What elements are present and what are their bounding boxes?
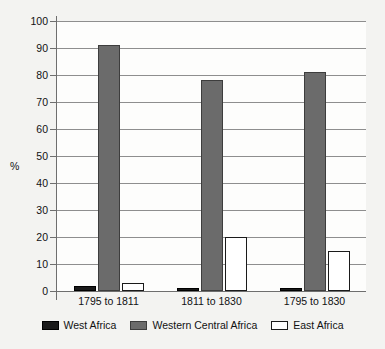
- y-tick-label-60: 60: [18, 124, 48, 135]
- bar-east-1: [225, 237, 247, 291]
- legend-swatch-east-icon: [271, 321, 288, 330]
- y-tick-label-20: 20: [18, 232, 48, 243]
- y-tick-label-30: 30: [18, 205, 48, 216]
- legend-label-west: West Africa: [64, 319, 117, 331]
- y-tick-label-80: 80: [18, 70, 48, 81]
- bar-central-1: [201, 80, 223, 291]
- y-tick-mark-80: [50, 75, 57, 76]
- legend-label-east: East Africa: [293, 319, 343, 331]
- y-tick-label-100: 100: [18, 16, 48, 27]
- bar-west-2: [280, 288, 302, 291]
- legend-label-central: Western Central Africa: [152, 319, 257, 331]
- y-tick-label-0: 0: [18, 286, 48, 297]
- y-axis-title: %: [10, 160, 19, 172]
- y-tick-mark-30: [50, 210, 57, 211]
- bar-east-0: [122, 283, 144, 291]
- y-tick-mark-90: [50, 48, 57, 49]
- gridline-0: [57, 291, 366, 292]
- legend-swatch-central-icon: [130, 321, 147, 330]
- bar-east-2: [328, 251, 350, 292]
- y-axis-line: [56, 16, 57, 300]
- y-tick-mark-60: [50, 129, 57, 130]
- y-tick-label-50: 50: [18, 151, 48, 162]
- y-tick-mark-10: [50, 264, 57, 265]
- category-label-1: 1811 to 1830: [160, 295, 263, 307]
- y-tick-mark-20: [50, 237, 57, 238]
- y-tick-mark-0: [50, 291, 57, 292]
- category-label-2: 1795 to 1830: [263, 295, 366, 307]
- category-label-0: 1795 to 1811: [57, 295, 160, 307]
- y-tick-label-40: 40: [18, 178, 48, 189]
- bar-chart: % 1009080706050403020100 1795 to 1811181…: [0, 0, 385, 349]
- y-tick-label-70: 70: [18, 97, 48, 108]
- y-tick-mark-50: [50, 156, 57, 157]
- bar-central-2: [304, 72, 326, 291]
- legend-item-central[interactable]: Western Central Africa: [130, 319, 257, 331]
- bar-central-0: [98, 45, 120, 291]
- legend-swatch-west-icon: [42, 321, 59, 330]
- bar-west-0: [74, 286, 96, 291]
- y-tick-mark-70: [50, 102, 57, 103]
- legend-item-west[interactable]: West Africa: [42, 319, 117, 331]
- bar-west-1: [177, 288, 199, 291]
- y-tick-label-10: 10: [18, 259, 48, 270]
- gridline-100: [57, 21, 366, 22]
- y-tick-label-90: 90: [18, 43, 48, 54]
- legend-item-east[interactable]: East Africa: [271, 319, 343, 331]
- y-tick-mark-100: [50, 21, 57, 22]
- chart-legend: West AfricaWestern Central AfricaEast Af…: [0, 319, 385, 331]
- y-tick-mark-40: [50, 183, 57, 184]
